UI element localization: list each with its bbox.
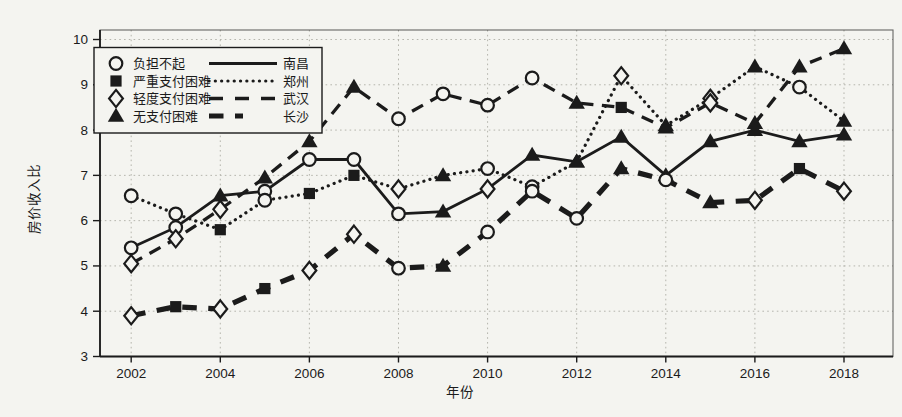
x-tick-label: 2018 [829, 366, 859, 381]
marker-triangle-series-2 [791, 58, 807, 72]
marker-circle-series-3 [481, 226, 494, 239]
marker-triangle-series-0 [435, 203, 451, 217]
legend-marker-label: 轻度支付困难 [133, 91, 211, 106]
y-axis-title: 房价收入比 [23, 144, 43, 254]
marker-circle-series-0 [303, 153, 316, 166]
x-tick-label: 2012 [562, 366, 592, 381]
marker-square-series-1 [348, 170, 359, 181]
marker-square-series-1 [215, 224, 226, 235]
marker-circle-series-1 [259, 194, 272, 207]
y-tick-label: 4 [80, 304, 88, 319]
figure-canvas: 2002200420062008201020122014201620183456… [0, 0, 902, 417]
marker-diamond-series-3 [213, 300, 227, 317]
legend-city-label: 武汉 [283, 91, 309, 106]
marker-triangle-series-2 [568, 95, 584, 109]
legend-marker-label: 严重支付困难 [133, 74, 211, 89]
marker-triangle-series-3 [613, 160, 629, 174]
legend-city-label: 南昌 [283, 56, 309, 71]
marker-square-series-3 [170, 301, 181, 312]
x-tick-label: 2014 [651, 366, 682, 381]
x-tick-label: 2002 [116, 366, 146, 381]
marker-circle-series-1 [125, 189, 138, 202]
marker-circle-series-0 [125, 242, 138, 255]
y-tick-label: 9 [80, 77, 88, 92]
y-tick-label: 10 [73, 32, 88, 47]
x-tick-label: 2004 [205, 366, 236, 381]
y-tick-label: 5 [80, 258, 88, 273]
marker-circle-series-2 [481, 99, 494, 112]
y-tick-label: 8 [80, 123, 88, 138]
marker-square-series-3 [259, 283, 270, 294]
marker-square-series-1 [304, 188, 315, 199]
x-tick-label: 2010 [473, 366, 503, 381]
x-tick-label: 2006 [294, 366, 324, 381]
marker-diamond-series-1 [392, 180, 406, 197]
marker-square-series-3 [794, 163, 805, 174]
legend-city-label: 郑州 [283, 74, 309, 89]
legend-marker-label: 无支付困难 [133, 109, 198, 124]
marker-circle-series-1 [169, 208, 182, 221]
marker-circle-series-2 [437, 88, 450, 101]
marker-circle-series-0 [392, 208, 405, 221]
marker-triangle-series-0 [524, 147, 540, 161]
marker-diamond-series-3 [837, 183, 851, 200]
marker-diamond-series-0 [481, 180, 495, 197]
marker-circle-series-3 [659, 174, 672, 187]
x-tick-label: 2008 [383, 366, 413, 381]
marker-circle-series-2 [526, 72, 539, 85]
marker-circle-series-3 [392, 262, 405, 275]
marker-circle-series-2 [392, 112, 405, 125]
marker-square-series-legend [110, 75, 121, 86]
marker-circle-series-3 [526, 185, 539, 198]
marker-triangle-series-0 [613, 129, 629, 143]
legend-city-label: 长沙 [283, 109, 309, 124]
marker-square-series-2 [616, 102, 627, 113]
marker-diamond-series-2 [124, 255, 138, 272]
marker-circle-series-legend [110, 57, 123, 70]
marker-triangle-series-1 [747, 58, 763, 72]
marker-circle-series-1 [481, 162, 494, 175]
x-tick-label: 2016 [740, 366, 770, 381]
marker-triangle-series-2 [301, 133, 317, 147]
marker-triangle-series-2 [346, 79, 362, 93]
y-tick-label: 7 [80, 168, 88, 183]
marker-diamond-series-2 [213, 201, 227, 218]
y-tick-label: 3 [80, 349, 88, 364]
marker-triangle-series-0 [836, 126, 852, 140]
y-tick-label: 6 [80, 213, 88, 228]
marker-triangle-series-2 [836, 40, 852, 54]
marker-diamond-series-3 [124, 307, 138, 324]
marker-triangle-series-2 [257, 169, 273, 183]
marker-circle-series-3 [570, 212, 583, 225]
x-axis-title: 年份 [446, 381, 474, 401]
legend-marker-label: 负担不起 [133, 56, 185, 71]
marker-circle-series-0 [348, 153, 361, 166]
marker-circle-series-1 [793, 81, 806, 94]
marker-triangle-series-1 [836, 113, 852, 127]
line-chart: 2002200420062008201020122014201620183456… [0, 0, 902, 417]
marker-diamond-series-1 [614, 67, 628, 84]
